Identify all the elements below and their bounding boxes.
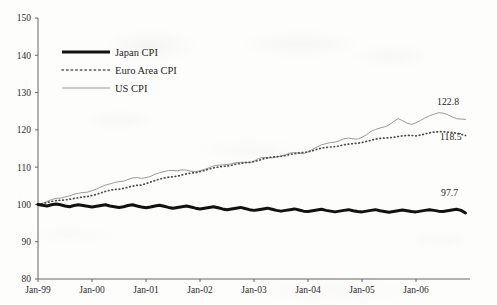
y-tick-label: 80 bbox=[22, 274, 32, 284]
legend-label-us: US CPI bbox=[115, 83, 148, 94]
x-tick-label: Jan-06 bbox=[403, 285, 429, 295]
chart-page: 8090100110120130140150 Jan-99Jan-00Jan-0… bbox=[0, 0, 497, 305]
legend-label-euro: Euro Area CPI bbox=[115, 65, 177, 76]
y-tick-label: 120 bbox=[17, 125, 32, 135]
x-tick-label: Jan-01 bbox=[133, 285, 159, 295]
y-tick-label: 130 bbox=[17, 88, 32, 98]
y-tick-label: 110 bbox=[17, 163, 31, 173]
end-label-us: 122.8 bbox=[437, 96, 459, 107]
series-layer bbox=[38, 113, 466, 213]
x-tick-label: Jan-99 bbox=[25, 285, 51, 295]
chart-legend: Japan CPI Euro Area CPI US CPI bbox=[62, 47, 177, 94]
y-tick-label: 150 bbox=[17, 13, 32, 23]
x-tick-label: Jan-05 bbox=[349, 285, 375, 295]
x-tick-label: Jan-03 bbox=[241, 285, 267, 295]
end-label-euro: 118.5 bbox=[440, 131, 462, 142]
y-tick-label: 90 bbox=[22, 237, 32, 247]
series-line-euro-area-cpi bbox=[38, 132, 466, 205]
y-tick-label: 100 bbox=[17, 200, 32, 210]
y-axis-ticks: 8090100110120130140150 bbox=[17, 13, 38, 284]
x-axis-ticks: Jan-99Jan-00Jan-01Jan-02Jan-03Jan-04Jan-… bbox=[25, 279, 429, 295]
end-label-japan: 97.7 bbox=[441, 187, 458, 198]
y-tick-label: 140 bbox=[17, 51, 32, 61]
series-line-japan-cpi bbox=[38, 204, 466, 213]
x-tick-label: Jan-04 bbox=[295, 285, 321, 295]
series-line-us-cpi bbox=[38, 113, 466, 205]
legend-label-japan: Japan CPI bbox=[115, 47, 158, 58]
cpi-line-chart: 8090100110120130140150 Jan-99Jan-00Jan-0… bbox=[0, 0, 497, 305]
x-tick-label: Jan-02 bbox=[187, 285, 213, 295]
x-tick-label: Jan-00 bbox=[79, 285, 105, 295]
